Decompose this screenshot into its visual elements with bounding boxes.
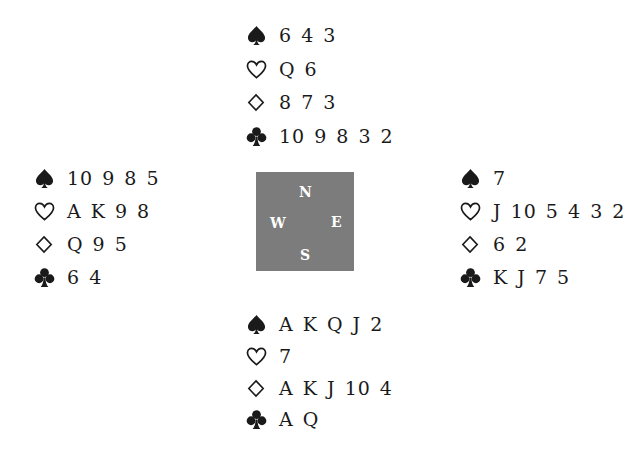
compass-west: W <box>270 215 286 231</box>
spade-icon <box>459 168 481 189</box>
diamond-icon <box>459 235 481 254</box>
south-hearts-row: 7 <box>245 341 292 371</box>
east-clubs-row: K J 7 5 <box>459 262 570 292</box>
north-diamonds: 8 7 3 <box>279 91 336 113</box>
east-hearts-row: J 10 5 4 3 2 <box>459 196 625 226</box>
north-hearts-row: Q 6 <box>245 54 318 84</box>
heart-icon <box>33 202 55 221</box>
compass-north: N <box>299 184 312 200</box>
club-icon <box>33 267 55 288</box>
diamond-icon <box>245 93 267 112</box>
west-spades: 10 9 8 5 <box>67 167 160 189</box>
compass-east: E <box>331 214 342 230</box>
south-clubs-row: A Q <box>245 404 319 434</box>
north-clubs: 10 9 8 3 2 <box>279 125 394 147</box>
west-clubs: 6 4 <box>67 266 102 288</box>
diamond-icon <box>33 235 55 254</box>
west-diamonds-row: Q 9 5 <box>33 229 128 259</box>
east-hearts: J 10 5 4 3 2 <box>493 200 625 222</box>
spade-icon <box>245 314 267 335</box>
heart-icon <box>459 202 481 221</box>
east-spades: 7 <box>493 167 506 189</box>
west-hearts-row: A K 9 8 <box>33 196 150 226</box>
south-clubs: A Q <box>279 408 319 430</box>
south-diamonds-row: A K J 10 4 <box>245 373 393 403</box>
south-spades-row: A K Q J 2 <box>245 309 383 339</box>
north-spades-row: 6 4 3 <box>245 20 336 50</box>
east-spades-row: 7 <box>459 163 506 193</box>
east-clubs: K J 7 5 <box>493 266 570 288</box>
east-diamonds-row: 6 2 <box>459 229 528 259</box>
heart-icon <box>245 60 267 79</box>
north-spades: 6 4 3 <box>279 24 336 46</box>
south-diamonds: A K J 10 4 <box>279 377 393 399</box>
compass-south: S <box>300 247 310 263</box>
heart-icon <box>245 347 267 366</box>
west-diamonds: Q 9 5 <box>67 233 128 255</box>
north-diamonds-row: 8 7 3 <box>245 87 336 117</box>
diamond-icon <box>245 379 267 398</box>
club-icon <box>245 409 267 430</box>
north-clubs-row: 10 9 8 3 2 <box>245 121 394 151</box>
club-icon <box>245 126 267 147</box>
spade-icon <box>33 168 55 189</box>
spade-icon <box>245 25 267 46</box>
west-spades-row: 10 9 8 5 <box>33 163 160 193</box>
club-icon <box>459 267 481 288</box>
north-hearts: Q 6 <box>279 58 318 80</box>
west-clubs-row: 6 4 <box>33 262 102 292</box>
east-diamonds: 6 2 <box>493 233 528 255</box>
south-hearts: 7 <box>279 345 292 367</box>
compass-table: N W E S <box>256 172 354 271</box>
west-hearts: A K 9 8 <box>67 200 150 222</box>
south-spades: A K Q J 2 <box>279 313 383 335</box>
